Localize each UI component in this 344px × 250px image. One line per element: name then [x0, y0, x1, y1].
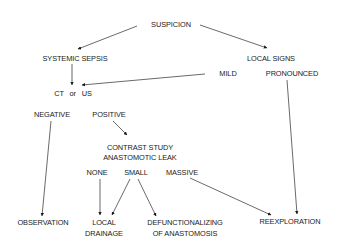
- node-reexploration: REEXPLORATION: [260, 217, 321, 226]
- node-label-line1: CONTRAST STUDY: [107, 143, 173, 152]
- node-small: SMALL: [124, 168, 148, 177]
- node-local-signs: LOCAL SIGNS: [247, 54, 295, 63]
- edge-suspicion-to-systemic-sepsis: [78, 26, 137, 49]
- node-label-line1: LOCAL: [92, 218, 116, 227]
- node-contrast-study: CONTRAST STUDY ANASTOMOTIC LEAK: [103, 143, 177, 162]
- node-mild: MILD: [219, 69, 236, 78]
- node-pronounced: PRONOUNCED: [266, 69, 318, 78]
- edge-negative-to-observation: [42, 121, 51, 216]
- node-negative: NEGATIVE: [34, 110, 70, 119]
- edge-pronounced-to-reexploration: [287, 80, 297, 214]
- flowchart-diagram: SUSPICION SYSTEMIC SEPSIS LOCAL SIGNS MI…: [0, 0, 344, 250]
- node-label: SYSTEMIC SEPSIS: [42, 54, 107, 63]
- node-label: MILD: [219, 69, 236, 78]
- node-label: POSITIVE: [92, 110, 125, 119]
- node-label: SUSPICION: [151, 20, 191, 29]
- node-defunctionalizing: DEFUNCTIONALIZING OF ANASTOMOSIS: [147, 218, 223, 238]
- node-local-drainage: LOCAL DRAINAGE: [85, 218, 123, 238]
- node-positive: POSITIVE: [92, 110, 125, 119]
- node-label: MASSIVE: [166, 168, 198, 177]
- node-suspicion: SUSPICION: [151, 20, 191, 29]
- node-massive: MASSIVE: [166, 168, 198, 177]
- edge-small-to-defunctionalizing: [138, 179, 156, 216]
- edge-small-to-local-drainage: [112, 179, 130, 215]
- node-label: PRONOUNCED: [266, 69, 318, 78]
- node-label: CT or US: [54, 89, 92, 98]
- node-none: NONE: [87, 168, 108, 177]
- edge-positive-to-contrast-study: [113, 121, 127, 135]
- node-label: REEXPLORATION: [260, 217, 321, 226]
- node-label: NEGATIVE: [34, 110, 70, 119]
- node-label: NONE: [87, 168, 108, 177]
- node-label: OBSERVATION: [17, 218, 68, 227]
- node-observation: OBSERVATION: [17, 218, 68, 227]
- edge-massive-to-reexploration: [190, 178, 271, 215]
- edge-suspicion-to-local-signs: [200, 25, 267, 48]
- node-label: SMALL: [124, 168, 148, 177]
- edge-mild-to-ct: [82, 74, 205, 85]
- node-label-line2: DRAINAGE: [85, 229, 123, 238]
- node-ct-or-us: CT or US: [54, 89, 92, 98]
- node-label-line1: DEFUNCTIONALIZING: [147, 218, 223, 227]
- node-label: LOCAL SIGNS: [247, 54, 295, 63]
- node-label-line2: OF ANASTOMOSIS: [153, 229, 218, 238]
- node-label-line2: ANASTOMOTIC LEAK: [103, 153, 177, 162]
- node-systemic-sepsis: SYSTEMIC SEPSIS: [42, 54, 107, 63]
